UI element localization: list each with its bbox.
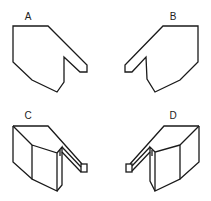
option-c[interactable]: C — [13, 110, 87, 191]
option-a[interactable]: A — [13, 11, 87, 92]
option-c-label: C — [24, 110, 31, 121]
shape-c-3d-solid — [13, 126, 87, 191]
option-a-label: A — [25, 11, 32, 22]
option-d-label: D — [169, 110, 176, 121]
option-d[interactable]: D — [126, 110, 199, 191]
option-b[interactable]: B — [125, 11, 198, 92]
shape-b-2d-outline — [125, 26, 198, 92]
shape-a-2d-outline — [13, 26, 87, 92]
option-b-label: B — [170, 11, 177, 22]
shape-d-3d-solid — [126, 126, 199, 191]
diagram-canvas: A B C D — [0, 0, 211, 201]
